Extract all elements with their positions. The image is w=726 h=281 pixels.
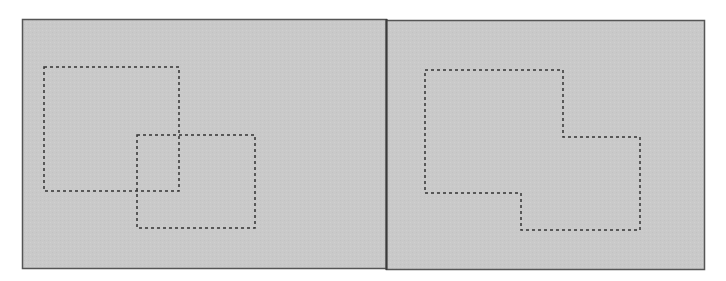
left-panel [23, 20, 387, 269]
diagram-canvas [0, 0, 726, 281]
right-panel [387, 21, 705, 270]
left-panel-background [23, 20, 387, 269]
right-panel-background [387, 21, 705, 270]
